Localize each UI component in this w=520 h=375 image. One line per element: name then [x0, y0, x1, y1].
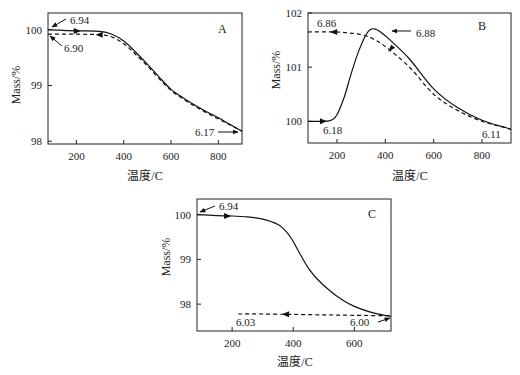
y-tick-label: 100 [26, 24, 43, 36]
x-axis-title: 温度/C [127, 168, 162, 183]
y-tick-label: 100 [286, 115, 303, 127]
annotation-6-94: 6.94 [70, 14, 90, 26]
x-ticks: 200400600800 [329, 139, 491, 161]
x-tick-label: 600 [163, 150, 180, 162]
direction-arrow [330, 29, 337, 35]
x-tick-label: 800 [474, 149, 491, 161]
x-tick-label: 800 [210, 150, 227, 162]
panel-label: C [368, 207, 376, 221]
x-tick-label: 400 [285, 337, 302, 349]
x-tick-label: 600 [346, 337, 363, 349]
arrows-layer [320, 29, 411, 124]
direction-arrow [388, 45, 395, 52]
panel-a: 200400600800 9899100 A 温度/C Mass/% 6.94 … [9, 13, 242, 183]
y-axis-title: Mass/% [9, 66, 23, 105]
x-tick-label: 400 [377, 149, 394, 161]
y-tick-label: 102 [286, 7, 303, 19]
x-axis-title: 温度/C [277, 354, 312, 369]
plot-frame [197, 199, 391, 331]
x-tick-label: 200 [329, 149, 346, 161]
series-line-cooling [308, 32, 511, 130]
x-ticks: 200400600800 [68, 140, 227, 162]
annotation-6-03: 6.03 [236, 316, 256, 328]
annotation-6-17: 6.17 [195, 126, 215, 138]
y-tick-label: 98 [180, 298, 192, 310]
annotation-6-00: 6.00 [350, 316, 370, 328]
x-tick-label: 600 [425, 149, 442, 161]
annotation-6-86: 6.86 [317, 17, 337, 29]
panel-c: 200400600 9899100 C 温度/C Mass/% 6.94 6.0… [159, 199, 391, 369]
annotation-arrow [50, 36, 62, 46]
direction-arrow [282, 311, 289, 317]
annotation-6-94: 6.94 [219, 200, 239, 212]
annotation-6-11: 6.11 [482, 128, 501, 140]
y-axis-title: Mass/% [159, 238, 173, 277]
y-tick-label: 101 [286, 61, 303, 73]
annotation-6-18: 6.18 [323, 124, 343, 136]
x-ticks: 200400600 [224, 327, 363, 349]
x-tick-label: 400 [115, 150, 132, 162]
plot-frame [48, 13, 242, 144]
annotation-arrow [200, 206, 215, 212]
direction-arrow [74, 28, 81, 34]
annotation-arrow [52, 19, 66, 27]
series-layer [197, 215, 391, 317]
figure: 200400600800 9899100 A 温度/C Mass/% 6.94 … [0, 0, 520, 375]
panel-label: A [218, 22, 227, 36]
panel-label: B [478, 19, 486, 33]
y-tick-label: 100 [175, 209, 192, 221]
y-tick-label: 99 [31, 79, 43, 91]
x-tick-label: 200 [68, 150, 85, 162]
panel-b: 200400600800 100101102 B 温度/C Mass/% 6.8… [269, 7, 511, 183]
series-layer [308, 29, 511, 130]
x-tick-label: 200 [224, 337, 241, 349]
x-axis-title: 温度/C [392, 168, 427, 183]
direction-arrow [96, 32, 103, 38]
y-tick-label: 99 [180, 253, 192, 265]
series-line-heating [197, 215, 391, 317]
arrows-layer [200, 206, 390, 322]
y-axis-title: Mass/% [269, 51, 283, 90]
annotation-6-90: 6.90 [64, 42, 84, 54]
y-tick-label: 98 [31, 135, 43, 147]
annotation-arrow [378, 318, 390, 322]
annotation-6-88: 6.88 [416, 27, 436, 39]
series-line-heating [308, 29, 511, 130]
direction-arrow [224, 213, 231, 219]
